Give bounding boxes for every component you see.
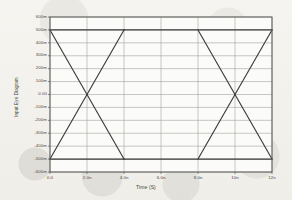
y-tick-label: -500m bbox=[34, 157, 47, 161]
y-axis-title: Input Eye Diagram bbox=[14, 77, 19, 117]
x-tick-label: 12n bbox=[257, 176, 287, 180]
y-tick-label: 300m bbox=[36, 53, 47, 57]
y-tick-label: 400m bbox=[36, 41, 47, 45]
x-tick-label: 0.0 bbox=[35, 176, 65, 180]
x-tick-label: 8.0n bbox=[183, 176, 213, 180]
y-tick-label: -600m bbox=[34, 170, 47, 174]
y-tick-label: 100m bbox=[36, 79, 47, 83]
y-tick-label: 200m bbox=[36, 66, 47, 70]
eye-diagram-figure: 600m500m400m300m200m100m0.00-100m-200m-3… bbox=[0, 0, 292, 200]
x-tick-label: 6.0n bbox=[146, 176, 176, 180]
y-tick-label: 600m bbox=[36, 15, 47, 19]
y-tick-label: 0.00 bbox=[38, 92, 47, 96]
x-tick-label: 2.0n bbox=[72, 176, 102, 180]
y-tick-label: -300m bbox=[34, 131, 47, 135]
grid-layer bbox=[50, 17, 272, 172]
y-tick-label: 500m bbox=[36, 28, 47, 32]
x-tick-label: 10n bbox=[220, 176, 250, 180]
y-tick-label: -400m bbox=[34, 144, 47, 148]
y-tick-label: -200m bbox=[34, 118, 47, 122]
x-axis-title: Time (S) bbox=[0, 184, 292, 190]
y-tick-label: -100m bbox=[34, 105, 47, 109]
x-tick-label: 4.0n bbox=[109, 176, 139, 180]
